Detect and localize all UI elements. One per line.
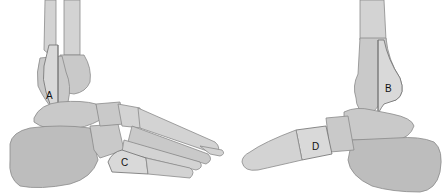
calcaneus [10, 126, 98, 188]
label-c: C [121, 157, 128, 168]
tibia-shaft [64, 0, 80, 55]
right-foot-medial-view: B D [242, 0, 441, 192]
calcaneus-medial [348, 138, 441, 193]
foot-ankle-diagram: A C B D [0, 0, 445, 196]
tibia-shaft-medial [360, 0, 386, 40]
metatarsal-1-medial [242, 130, 302, 170]
label-a: A [46, 90, 53, 101]
label-d: D [312, 141, 319, 152]
region-b-highlight [378, 40, 402, 116]
talus-medial [343, 108, 414, 140]
label-b: B [385, 83, 392, 94]
left-foot-lateral-view: A C [10, 0, 224, 188]
